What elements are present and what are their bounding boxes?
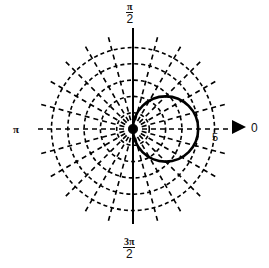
label-pi-over-2-denominator: 2 [126,13,133,26]
grid-spoke [84,45,133,129]
radial-tick-label-5: 5 [212,131,218,143]
label-3pi-over-2-denominator: 2 [126,248,133,261]
grid-spoke [108,35,133,129]
grid-spoke [49,129,133,178]
grid-spoke [49,80,133,129]
label-zero: 0 [251,121,258,135]
zero-direction-arrow-icon [232,120,246,134]
grid-spoke [84,129,133,213]
label-pi-over-2: π 2 [126,2,133,26]
grid-spoke [39,129,133,154]
grid-spoke [133,129,182,213]
label-pi: π [13,123,19,135]
grid-spoke [133,45,182,129]
polar-plot [0,0,269,268]
label-3pi-over-2: 3π 2 [123,237,135,261]
